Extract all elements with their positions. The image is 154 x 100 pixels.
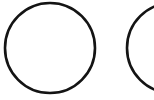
drawing-canvas — [0, 0, 154, 100]
figure-svg — [0, 0, 154, 100]
